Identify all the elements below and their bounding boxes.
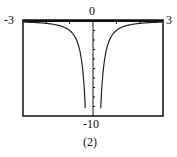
x-max-label: 3 (166, 14, 172, 26)
x-min-label: -3 (4, 14, 14, 26)
y-max-label: 0 (89, 5, 95, 17)
curve-right (101, 22, 162, 108)
curve-left (24, 22, 85, 108)
y-min-label: -10 (83, 118, 99, 130)
figure-caption: (2) (83, 136, 97, 148)
plot-area (0, 0, 177, 157)
